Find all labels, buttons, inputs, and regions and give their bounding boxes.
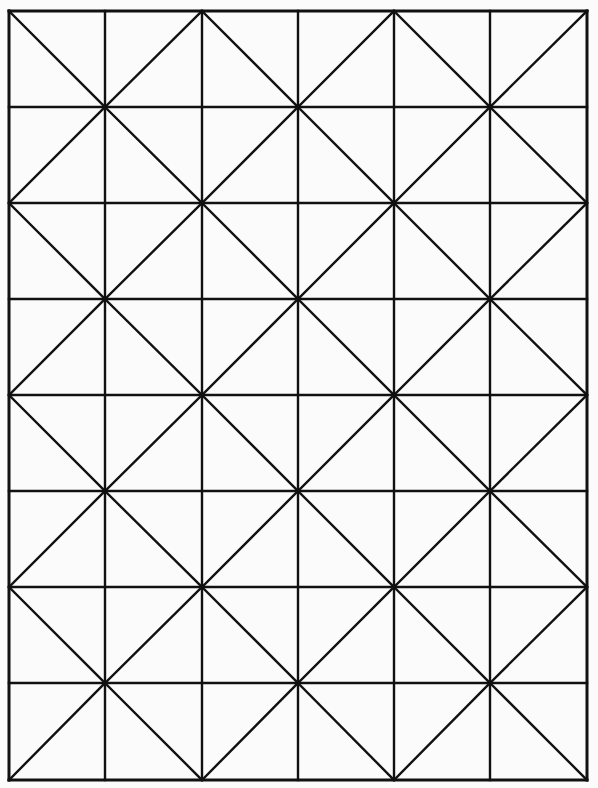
diagonal-slash — [9, 491, 105, 587]
diagonal-slash — [490, 395, 587, 491]
diagonal-slash — [105, 11, 202, 107]
diagonal-backslash — [202, 203, 298, 299]
diagonal-slash — [9, 107, 105, 203]
diagonal-backslash — [298, 683, 394, 780]
grid-lines — [9, 11, 587, 780]
grid-diagram — [0, 0, 598, 788]
diagonal-backslash — [105, 299, 202, 395]
diagonal-slash — [490, 587, 587, 683]
diagonal-slash — [394, 299, 490, 395]
diagonal-slash — [202, 683, 298, 780]
diagonal-backslash — [202, 395, 298, 491]
diagonal-backslash — [490, 107, 587, 203]
diagonal-backslash — [105, 107, 202, 203]
diagonal-backslash — [298, 299, 394, 395]
diagonal-slash — [202, 491, 298, 587]
diagonal-slash — [202, 299, 298, 395]
diagonal-backslash — [394, 11, 490, 107]
diagonal-backslash — [394, 203, 490, 299]
diagonal-backslash — [490, 299, 587, 395]
diagonal-slash — [490, 11, 587, 107]
diagonal-backslash — [490, 491, 587, 587]
diagonal-slash — [105, 395, 202, 491]
diagonal-slash — [9, 299, 105, 395]
diagonal-slash — [298, 11, 394, 107]
diagonal-slash — [298, 587, 394, 683]
diagonal-backslash — [9, 587, 105, 683]
diagonal-backslash — [394, 395, 490, 491]
diagonal-backslash — [298, 491, 394, 587]
diagonal-slash — [394, 683, 490, 780]
diagonal-backslash — [490, 683, 587, 780]
diagonal-backslash — [298, 107, 394, 203]
diagonal-slash — [298, 395, 394, 491]
diagonal-backslash — [9, 395, 105, 491]
diagonal-slash — [9, 683, 105, 780]
diagonal-backslash — [394, 587, 490, 683]
diagonal-slash — [490, 203, 587, 299]
diagonal-backslash — [105, 491, 202, 587]
diagonal-slash — [394, 491, 490, 587]
diagonal-backslash — [105, 683, 202, 780]
diagonal-slash — [202, 107, 298, 203]
diagonal-slash — [105, 587, 202, 683]
diagonal-backslash — [9, 11, 105, 107]
diagonal-slash — [394, 107, 490, 203]
diagonal-backslash — [202, 587, 298, 683]
diagonal-backslash — [9, 203, 105, 299]
diagonal-slash — [298, 203, 394, 299]
diagonal-slash — [105, 203, 202, 299]
diagonal-backslash — [202, 11, 298, 107]
